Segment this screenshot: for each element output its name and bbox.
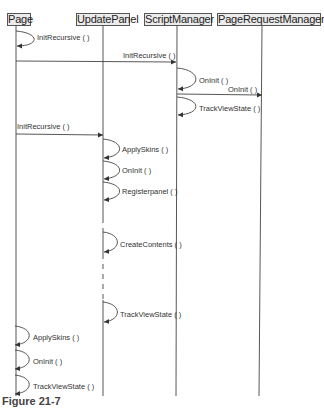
participant-pagerequestmanager: PageRequestManager <box>217 13 321 26</box>
msg-sm-to-prm <box>177 94 262 95</box>
message-label: InitRecursive ( ) <box>17 122 70 131</box>
self-call-up-trackviewstate <box>103 302 117 322</box>
message-label: OnInit ( ) <box>199 76 228 85</box>
self-call-page-applyskins <box>15 326 29 345</box>
self-call-page-initrecursive <box>16 31 34 46</box>
message-label: CreateContents ( ) <box>120 240 182 249</box>
message-label: InitRecursive ( ) <box>37 33 90 42</box>
message-label: OnInit ( ) <box>33 357 62 366</box>
message-label: OnInit ( ) <box>228 85 257 94</box>
msg-page-to-scriptmanager <box>16 61 176 62</box>
message-label: TrackViewState ( ) <box>33 382 94 391</box>
msg-page-to-updatepanel <box>16 134 103 135</box>
self-call-up-applyskins <box>103 139 120 158</box>
self-call-up-registerpanel <box>103 182 120 200</box>
message-label: InitRecursive ( ) <box>123 51 176 60</box>
self-call-sm-trackviewstate <box>177 97 196 115</box>
message-label: OnInit ( ) <box>122 166 151 175</box>
figure-caption: Figure 21-7 <box>2 396 61 407</box>
self-call-page-trackviewstate <box>15 375 29 394</box>
message-label: ApplySkins ( ) <box>33 333 79 342</box>
participant-page: Page <box>7 13 31 26</box>
message-label: TrackViewState ( ) <box>199 104 260 113</box>
lifeline-scriptmanager <box>176 26 177 396</box>
message-label: ApplySkins ( ) <box>122 145 168 154</box>
participant-scriptmanager: ScriptManager <box>144 13 212 26</box>
self-call-up-oninit <box>103 161 120 179</box>
message-label: TrackViewState ( ) <box>120 310 181 319</box>
self-call-up-createcontents <box>103 232 117 252</box>
message-label: Registerpanel ( ) <box>122 187 177 196</box>
self-call-page-oninit <box>15 350 29 369</box>
participant-updatepanel: UpdatePanel <box>76 13 130 26</box>
self-call-sm-oninit <box>177 68 196 89</box>
lifeline-pagerequestmanager <box>259 26 262 396</box>
